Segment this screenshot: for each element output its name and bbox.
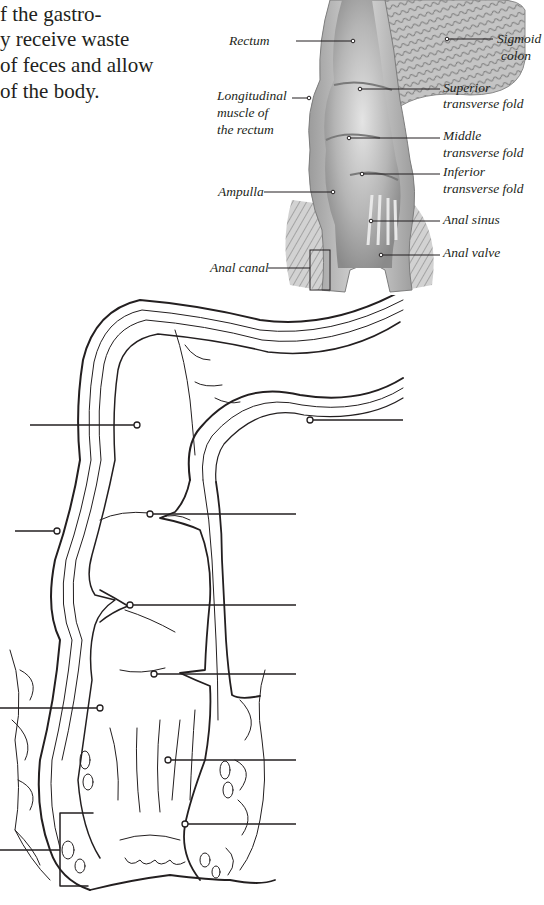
label-longitudinal-3: the rectum <box>217 122 274 138</box>
label-anal-valve: Anal valve <box>443 245 500 261</box>
leader-lines <box>0 417 403 850</box>
reference-illustration: Rectum Sigmoid colon Longitudinal muscle… <box>0 0 544 300</box>
label-anal-sinus: Anal sinus <box>443 212 500 228</box>
label-sigmoid-colon-2: colon <box>501 48 531 64</box>
label-superior-2: transverse fold <box>443 96 524 112</box>
label-superior-1: Superior <box>443 80 490 96</box>
labeling-exercise-drawing <box>0 295 544 905</box>
label-longitudinal-2: muscle of <box>217 105 268 121</box>
label-rectum: Rectum <box>229 33 269 49</box>
label-inferior-2: transverse fold <box>443 181 524 197</box>
label-middle-1: Middle <box>443 128 481 144</box>
label-anal-canal: Anal canal <box>210 260 269 276</box>
label-middle-2: transverse fold <box>443 145 524 161</box>
label-longitudinal-1: Longitudinal <box>217 88 287 104</box>
label-sigmoid-colon-1: Sigmoid <box>497 31 541 47</box>
rectum-line-drawing <box>0 295 544 905</box>
label-inferior-1: Inferior <box>443 164 485 180</box>
label-ampulla: Ampulla <box>218 184 264 200</box>
